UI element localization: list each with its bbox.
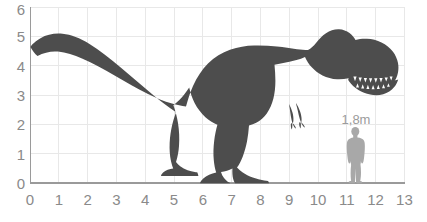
- y-tick-label-5: 5: [13, 29, 25, 44]
- y-tick-label-1: 1: [13, 146, 25, 161]
- x-tick-label-7: 7: [227, 192, 235, 207]
- y-tick-label-4: 4: [13, 58, 25, 73]
- human-height-label: 1,8m: [342, 112, 371, 127]
- x-tick-label-9: 9: [285, 192, 293, 207]
- x-tick-label-13: 13: [396, 192, 413, 207]
- x-tick-label-0: 0: [26, 192, 34, 207]
- x-tick-label-5: 5: [170, 192, 178, 207]
- dinosaur-scale-diagram: 0 1 2 3 4 5 6 0 1 2 3 4 5 6 7 8 9 10 11 …: [0, 0, 427, 222]
- y-tick-label-0: 0: [13, 176, 25, 191]
- forelimbs: [289, 103, 305, 129]
- x-tick-label-1: 1: [55, 192, 63, 207]
- x-tick-label-4: 4: [141, 192, 149, 207]
- x-tick-label-11: 11: [339, 192, 355, 207]
- x-tick-label-12: 12: [367, 192, 384, 207]
- x-tick-label-8: 8: [256, 192, 264, 207]
- x-tick-label-2: 2: [83, 192, 91, 207]
- tyrannosaurus-rex-silhouette: [30, 29, 398, 183]
- human-silhouette: [347, 127, 365, 183]
- y-tick-label-6: 6: [13, 2, 25, 17]
- x-tick-label-6: 6: [199, 192, 207, 207]
- y-tick-label-3: 3: [13, 88, 25, 103]
- x-tick-label-3: 3: [112, 192, 120, 207]
- x-tick-label-10: 10: [310, 192, 327, 207]
- scale-diagram-canvas: [0, 0, 427, 222]
- y-tick-label-2: 2: [13, 117, 25, 132]
